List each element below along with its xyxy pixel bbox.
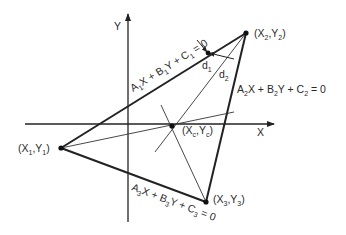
label-d2: d2	[219, 68, 229, 82]
point-centroid	[169, 123, 174, 128]
triangle-centroid-diagram: Y X (X1,Y1) (X2,Y2) (X3,Y3) (Xc,Yc)	[0, 0, 346, 235]
median-from-p1	[61, 112, 234, 148]
equation-line-1: A1X + B1Y + C1 = 0	[128, 36, 211, 95]
equation-line-2: A2X + B2Y + C2 = 0	[237, 83, 326, 97]
label-centroid: (Xc,Yc)	[182, 124, 213, 138]
medians	[61, 33, 246, 202]
point-p3	[203, 199, 208, 204]
x-axis-label: X	[257, 126, 264, 138]
point-p2	[243, 30, 248, 35]
side-line-2	[206, 33, 246, 202]
side-line-1	[61, 33, 246, 148]
point-p1	[58, 145, 63, 150]
label-p2: (X2,Y2)	[254, 27, 286, 41]
points	[58, 30, 248, 204]
label-d1: d1	[202, 59, 212, 73]
point-inner	[206, 51, 211, 56]
label-p1: (X1,Y1)	[18, 142, 50, 156]
label-p3: (X3,Y3)	[213, 193, 245, 207]
y-axis-label: Y	[114, 20, 121, 32]
triangle	[61, 33, 246, 202]
